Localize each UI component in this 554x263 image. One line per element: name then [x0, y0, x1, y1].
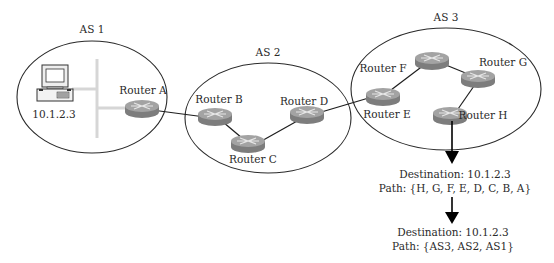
link-g-h — [458, 86, 474, 109]
router-f-icon[interactable] — [415, 52, 449, 70]
network-diagram — [0, 0, 554, 263]
router-e-icon[interactable] — [366, 88, 400, 106]
arrow-down-icon — [445, 197, 459, 224]
arrow-down-icon — [445, 121, 459, 164]
advertisement-1-destination: Destination: 10.1.2.3 — [399, 168, 511, 180]
router-c-icon[interactable] — [231, 135, 265, 153]
router-e-label: Router E — [363, 108, 410, 120]
lan-segment — [72, 59, 130, 138]
link-a-b — [152, 110, 205, 117]
router-a-label: Router A — [119, 84, 166, 96]
router-c-label: Router C — [229, 153, 277, 165]
as1-label: AS 1 — [80, 23, 105, 35]
router-f-label: Router F — [359, 62, 406, 74]
host-ip-label: 10.1.2.3 — [32, 108, 75, 120]
router-g-label: Router G — [479, 56, 527, 68]
advertisement-2-path: Path: {AS3, AS2, AS1} — [392, 240, 514, 252]
router-a-icon[interactable] — [125, 100, 159, 118]
router-b-label: Router B — [195, 93, 243, 105]
as2-label: AS 2 — [256, 46, 281, 58]
router-b-icon[interactable] — [198, 108, 232, 126]
router-d-label: Router D — [280, 95, 328, 107]
computer-icon[interactable] — [37, 65, 73, 101]
as3-label: AS 3 — [434, 11, 459, 23]
router-d-icon[interactable] — [290, 106, 324, 124]
advertisement-1-path: Path: {H, G, F, E, D, C, B, A} — [379, 182, 531, 194]
router-g-icon[interactable] — [461, 70, 495, 88]
router-h-label: Router H — [459, 109, 508, 121]
advertisement-2-destination: Destination: 10.1.2.3 — [397, 226, 509, 238]
